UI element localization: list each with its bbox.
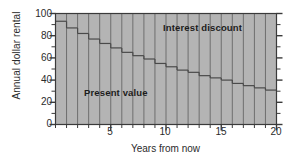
chart-figure: Annual dollar rental 100 80 60 40 20 0 5… <box>0 0 297 162</box>
series-label-present-value: Present value <box>84 87 148 98</box>
series-label-interest-discount: Interest discount <box>163 22 242 33</box>
plot-area <box>0 0 297 162</box>
